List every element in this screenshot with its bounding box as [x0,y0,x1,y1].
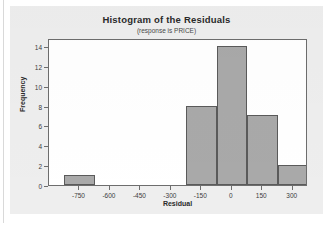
plot-frame [48,39,307,186]
x-axis-tick [139,186,140,190]
x-axis-tick [292,186,293,190]
x-axis-tick-label: -150 [194,192,207,199]
x-axis-tick [261,186,262,190]
y-axis-tick [44,146,48,147]
y-axis-tick-label: 8 [38,103,42,110]
chart-subtitle: (response is PRICE) [10,27,323,34]
y-axis-tick-label: 12 [35,63,42,70]
x-axis-tick-label: -600 [102,192,115,199]
x-axis-tick-label: 150 [256,192,267,199]
y-axis-title: Frequency [19,77,26,112]
x-axis-tick [109,186,110,190]
histogram-bar [247,115,277,185]
page-left-rule [3,0,4,223]
x-axis-tick-label: 300 [286,192,297,199]
x-axis-tick-label: 0 [229,192,233,199]
x-axis-tick [170,186,171,190]
x-axis-tick-label: -300 [163,192,176,199]
x-axis-tick [231,186,232,190]
y-axis-tick [44,87,48,88]
x-axis-tick-label: -750 [72,192,85,199]
y-axis-tick [44,107,48,108]
y-axis-tick-label: 0 [38,183,42,190]
y-axis-tick-label: 14 [35,43,42,50]
histogram-figure: Histogram of the Residuals (response is … [10,6,323,214]
y-axis-tick [44,126,48,127]
x-axis-tick [200,186,201,190]
y-axis-tick [44,186,48,187]
x-axis-tick [78,186,79,190]
histogram-bar [186,106,216,185]
histogram-bar [64,175,94,185]
x-axis-tick-label: -450 [133,192,146,199]
y-axis-tick [44,166,48,167]
y-axis-tick-label: 6 [38,123,42,130]
x-axis-title: Residual [48,200,307,207]
plot-area [49,40,306,185]
histogram-bar [278,165,306,185]
page-root: Histogram of the Residuals (response is … [0,0,331,235]
chart-title: Histogram of the Residuals [10,14,323,25]
y-axis-tick-label: 4 [38,143,42,150]
histogram-bar [217,46,247,185]
y-axis-tick-label: 10 [35,83,42,90]
y-axis-tick-label: 2 [38,163,42,170]
y-axis-tick [44,67,48,68]
y-axis-tick [44,47,48,48]
